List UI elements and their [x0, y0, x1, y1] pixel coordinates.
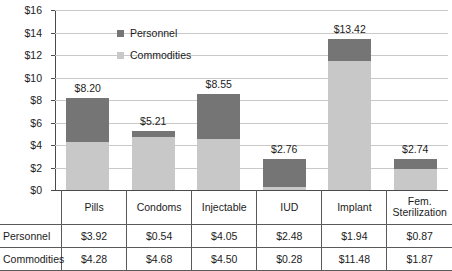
bar-iud[interactable] — [263, 159, 306, 190]
data-table-body: Pills Condoms Injectable IUD Implant — [0, 190, 452, 271]
y-axis-labels: $16$14$12$10$8$6$4$2$0 — [0, 0, 42, 193]
bar-total-label: $8.55 — [186, 79, 252, 90]
bar-segment-commodities — [394, 169, 437, 190]
table-header-fem-sterilization: Fem. Sterilization — [387, 190, 452, 225]
chart-legend: Personnel Commodities — [117, 22, 232, 66]
legend-item-personnel: Personnel — [117, 22, 232, 44]
y-axis-tick-label: $6 — [0, 118, 42, 128]
bar-segment-personnel — [197, 94, 240, 140]
bar-segment-personnel — [66, 98, 109, 142]
bar-slot — [317, 10, 383, 190]
cell-personnel-injectable: $4.05 — [192, 225, 257, 248]
bar-implant[interactable] — [328, 39, 371, 190]
bar-slot — [252, 10, 318, 190]
bar-segment-commodities — [197, 139, 240, 190]
legend-label-personnel: Personnel — [130, 28, 177, 39]
table-row: Commodities $4.28 $4.68 $4.50 $0.28 $11.… — [0, 248, 452, 271]
data-table: Pills Condoms Injectable IUD Implant — [0, 190, 452, 271]
cell-personnel-condoms: $0.54 — [127, 225, 192, 248]
cell-personnel-iud: $2.48 — [257, 225, 322, 248]
y-axis-tick-label: $12 — [0, 50, 42, 60]
bar-slot — [383, 10, 449, 190]
y-axis-tick-label: $8 — [0, 95, 42, 105]
table-header-pills: Pills — [62, 190, 127, 225]
table-header-fem-sterilization-line2: Sterilization — [387, 207, 452, 218]
table-header-condoms-line1: Condoms — [127, 202, 191, 213]
cell-commodities-fem-sterilization: $1.87 — [387, 248, 452, 271]
table-row-label-commodities: Commodities — [0, 248, 62, 271]
legend-label-commodities: Commodities — [130, 50, 191, 61]
table-header-injectable: Injectable — [192, 190, 257, 225]
bar-injectable[interactable] — [197, 94, 240, 190]
table-header-condoms: Condoms — [127, 190, 192, 225]
cell-commodities-injectable: $4.50 — [192, 248, 257, 271]
bar-condoms[interactable] — [132, 131, 175, 190]
table-header-row: Pills Condoms Injectable IUD Implant — [0, 190, 452, 225]
table-header-injectable-line1: Injectable — [192, 202, 256, 213]
cell-commodities-pills: $4.28 — [62, 248, 127, 271]
bar-total-label: $2.74 — [383, 144, 449, 155]
stacked-bar-chart: $16$14$12$10$8$6$4$2$0 $8.20$5.21$8.55$2… — [0, 0, 452, 193]
cell-personnel-implant: $1.94 — [322, 225, 387, 248]
bar-total-label: $2.76 — [252, 144, 318, 155]
bar-segment-commodities — [132, 137, 175, 190]
y-axis-tick-label: $14 — [0, 28, 42, 38]
table-corner-cell — [0, 190, 62, 225]
bar-segment-commodities — [66, 142, 109, 190]
bar-segment-personnel — [328, 39, 371, 61]
bar-segment-commodities — [328, 61, 371, 190]
y-axis-tick-label: $10 — [0, 73, 42, 83]
y-axis-tick-label: $2 — [0, 163, 42, 173]
bar-segment-personnel — [394, 159, 437, 169]
bar-fem-sterilization[interactable] — [394, 159, 437, 190]
table-header-iud: IUD — [257, 190, 322, 225]
table-header-pills-line1: Pills — [62, 202, 126, 213]
table-row-label-personnel: Personnel — [0, 225, 62, 248]
bar-total-label: $13.42 — [317, 24, 383, 35]
cell-commodities-condoms: $4.68 — [127, 248, 192, 271]
plot-area: $8.20$5.21$8.55$2.76$13.42$2.74 — [55, 10, 448, 190]
bar-total-label: $8.20 — [55, 83, 121, 94]
bar-slot — [55, 10, 121, 190]
legend-swatch-personnel — [117, 30, 124, 37]
bar-total-label: $5.21 — [121, 116, 187, 127]
y-axis-tick-label: $4 — [0, 140, 42, 150]
y-axis-tick-label: $16 — [0, 5, 42, 15]
table-row: Personnel $3.92 $0.54 $4.05 $2.48 $1.94 … — [0, 225, 452, 248]
bar-pills[interactable] — [66, 98, 109, 190]
table-header-implant-line1: Implant — [322, 202, 386, 213]
table-header-implant: Implant — [322, 190, 387, 225]
legend-swatch-commodities — [117, 52, 124, 59]
legend-item-commodities: Commodities — [117, 44, 232, 66]
cell-commodities-iud: $0.28 — [257, 248, 322, 271]
cell-personnel-fem-sterilization: $0.87 — [387, 225, 452, 248]
cell-commodities-implant: $11.48 — [322, 248, 387, 271]
cell-personnel-pills: $3.92 — [62, 225, 127, 248]
bar-segment-personnel — [263, 159, 306, 187]
table-header-iud-line1: IUD — [257, 202, 321, 213]
